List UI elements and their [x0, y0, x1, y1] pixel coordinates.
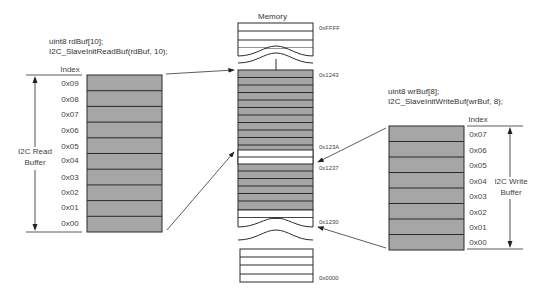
read-index-label: 0x08 — [50, 95, 90, 104]
write-index-label: 0x01 — [458, 223, 498, 232]
address-0xffff: 0xFFFF — [319, 25, 340, 31]
write-buffer-declaration: uint8 wrBuf[8]; — [388, 87, 439, 97]
write-index-label: 0x06 — [458, 146, 498, 155]
read-buffer-label-line2: Buffer — [14, 158, 56, 167]
write-index-label: 0x07 — [458, 130, 498, 139]
address-0x1243: 0x1243 — [319, 72, 339, 78]
memory-title: Memory — [258, 12, 287, 21]
write-index-label: 0x00 — [458, 238, 498, 247]
write-index-header: Index — [458, 115, 498, 124]
address-0x0000: 0x0000 — [319, 275, 339, 281]
read-buffer-declaration: uint8 rdBuf[10]; — [49, 37, 103, 47]
write-buffer-label-line2: Buffer — [489, 188, 533, 197]
memory-top-blocks — [238, 23, 313, 70]
address-0x123a: 0x123A — [319, 144, 339, 150]
read-buffer-cells — [87, 75, 162, 232]
read-index-header: Index — [50, 65, 90, 74]
read-index-label: 0x07 — [50, 110, 90, 119]
write-index-label: 0x05 — [458, 161, 498, 170]
read-index-label: 0x01 — [50, 203, 90, 212]
write-buffer-init-call: I2C_SlaveInitWriteBuf(wrBuf, 8); — [388, 97, 503, 107]
read-index-label: 0x02 — [50, 188, 90, 197]
memory-used-region — [238, 70, 313, 210]
write-buffer-label: I2C Write — [489, 177, 533, 186]
read-index-label: 0x00 — [50, 219, 90, 228]
address-0x1230: 0x1230 — [319, 219, 339, 225]
memory-bottom-blocks — [238, 210, 313, 282]
read-index-label: 0x09 — [50, 79, 90, 88]
address-0x1237: 0x1237 — [319, 165, 339, 171]
write-index-label: 0x02 — [458, 208, 498, 217]
read-buffer-label: I2C Read — [14, 147, 56, 156]
read-index-label: 0x06 — [50, 126, 90, 135]
read-index-label: 0x05 — [50, 142, 90, 151]
read-index-label: 0x03 — [50, 173, 90, 182]
read-index-label: 0x04 — [50, 156, 90, 165]
write-buffer-cells — [389, 126, 464, 250]
read-buffer-init-call: I2C_SlaveInitReadBuf(rdBuf, 10); — [49, 47, 168, 57]
